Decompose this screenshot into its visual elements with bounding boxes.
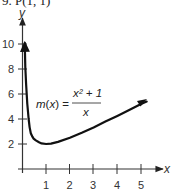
- x-axis-label: x: [163, 162, 171, 176]
- x-tick-label: 5: [138, 179, 144, 191]
- y-tick-label: 6: [8, 88, 14, 100]
- x-tick-label: 4: [114, 179, 120, 191]
- y-tick-label: 8: [8, 63, 14, 75]
- y-axis-label: y: [18, 6, 26, 20]
- y-tick-label: 10: [2, 38, 14, 50]
- x-tick-label: 3: [90, 179, 96, 191]
- svg-text:m(x) =: m(x) =: [36, 98, 69, 110]
- formula-numerator: x² + 1: [72, 87, 102, 99]
- chart: y x 2 4 6 8 10 1 2 3 4 5 m(x) = x² + 1 x: [0, 0, 172, 191]
- function-label: m(x) = x² + 1 x: [36, 87, 102, 118]
- y-tick-label: 4: [8, 113, 14, 125]
- formula-denominator: x: [82, 106, 90, 118]
- y-tick-label: 2: [8, 138, 14, 150]
- x-tick-label: 2: [67, 179, 73, 191]
- x-tick-label: 1: [43, 179, 49, 191]
